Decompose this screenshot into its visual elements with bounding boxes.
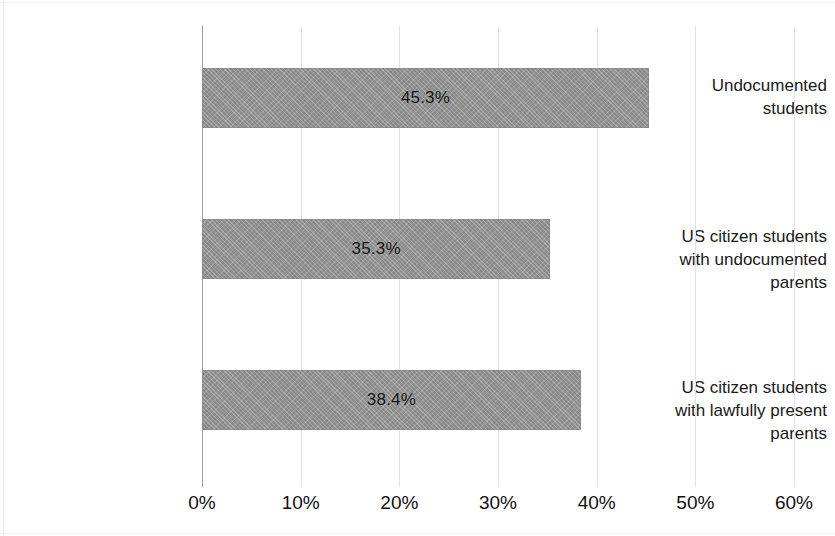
x-tick-label-0pct: 0% bbox=[188, 492, 215, 514]
bar-3: 38.4% bbox=[202, 370, 581, 430]
x-tick-label-40pct: 40% bbox=[578, 492, 616, 514]
page-edge-line-left bbox=[3, 0, 4, 536]
bar-1: 45.3% bbox=[202, 68, 649, 128]
bar-2: 35.3% bbox=[202, 219, 550, 279]
gridline-50pct bbox=[695, 26, 696, 487]
x-tick-label-20pct: 20% bbox=[380, 492, 418, 514]
bar-value-label-1: 45.3% bbox=[202, 88, 649, 108]
bar-chart: Undocumented students US citizen student… bbox=[0, 0, 835, 536]
gridline-60pct bbox=[794, 26, 795, 487]
page-edge-line-top bbox=[0, 2, 835, 3]
x-tick-label-50pct: 50% bbox=[676, 492, 714, 514]
bar-value-label-2: 35.3% bbox=[202, 239, 550, 259]
x-tick-label-30pct: 30% bbox=[479, 492, 517, 514]
page-edge-line-bottom bbox=[0, 533, 835, 534]
x-tick-label-10pct: 10% bbox=[282, 492, 320, 514]
plot-area: 45.3%35.3%38.4% bbox=[202, 26, 794, 487]
bar-value-label-3: 38.4% bbox=[202, 390, 581, 410]
x-axis-tick-labels: 0%10%20%30%40%50%60% bbox=[0, 492, 835, 526]
x-tick-label-60pct: 60% bbox=[775, 492, 813, 514]
